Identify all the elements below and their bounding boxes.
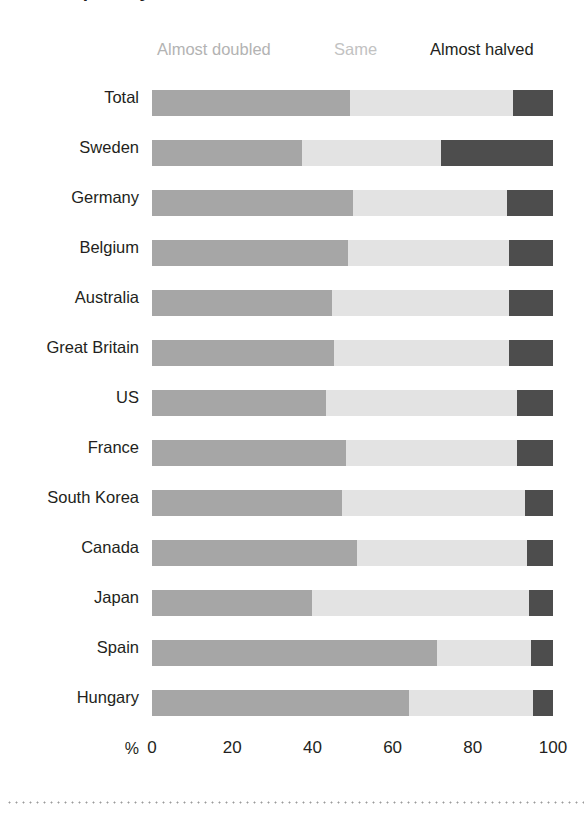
segment-same (348, 240, 508, 266)
segment-same (437, 640, 531, 666)
stacked-bar (152, 290, 553, 316)
chart-row: Sweden (0, 128, 587, 178)
chart-row: South Korea (0, 478, 587, 528)
chart-row: Great Britain (0, 328, 587, 378)
segment-almost-doubled (152, 440, 346, 466)
chart-row: Australia (0, 278, 587, 328)
chart-container: Extreme poverty has almost halved Almost… (0, 0, 587, 824)
segment-same (409, 690, 533, 716)
x-tick-80: 80 (463, 738, 482, 758)
segment-almost-doubled (152, 140, 302, 166)
chart-row: Hungary (0, 678, 587, 728)
row-label-total: Total (0, 88, 139, 107)
row-label-great-britain: Great Britain (0, 338, 139, 357)
stacked-bar (152, 540, 553, 566)
segment-same (302, 140, 440, 166)
row-label-france: France (0, 438, 139, 457)
footer-dotted-divider (6, 801, 584, 804)
segment-almost-doubled (152, 490, 342, 516)
stacked-bar (152, 390, 553, 416)
chart-row: US (0, 378, 587, 428)
stacked-bar (152, 490, 553, 516)
row-label-hungary: Hungary (0, 688, 139, 707)
segment-almost-halved (441, 140, 553, 166)
segment-same (342, 490, 524, 516)
row-label-sweden: Sweden (0, 138, 139, 157)
row-label-us: US (0, 388, 139, 407)
plot-area: TotalSwedenGermanyBelgiumAustraliaGreat … (0, 78, 587, 728)
legend-item-almost-halved: Almost halved (430, 40, 534, 59)
row-label-canada: Canada (0, 538, 139, 557)
row-label-spain: Spain (0, 638, 139, 657)
row-label-germany: Germany (0, 188, 139, 207)
segment-almost-doubled (152, 240, 348, 266)
segment-same (332, 290, 508, 316)
row-label-japan: Japan (0, 588, 139, 607)
chart-row: France (0, 428, 587, 478)
x-tick-20: 20 (223, 738, 242, 758)
chart-title-clip: Extreme poverty has almost halved (0, 0, 587, 6)
chart-row: Spain (0, 628, 587, 678)
legend-item-almost-doubled: Almost doubled (157, 40, 271, 59)
legend-item-same: Same (334, 40, 377, 59)
segment-same (350, 90, 512, 116)
x-tick-100: 100 (539, 738, 567, 758)
segment-almost-halved (529, 590, 553, 616)
segment-almost-halved (513, 90, 553, 116)
segment-almost-halved (527, 540, 553, 566)
axis-unit-label: % (0, 740, 139, 758)
segment-same (353, 190, 507, 216)
chart-title: Extreme poverty has almost halved (4, 0, 316, 2)
segment-almost-halved (517, 390, 553, 416)
stacked-bar (152, 690, 553, 716)
segment-same (312, 590, 529, 616)
row-label-south-korea: South Korea (0, 488, 139, 507)
stacked-bar (152, 240, 553, 266)
row-label-australia: Australia (0, 288, 139, 307)
segment-almost-halved (525, 490, 553, 516)
segment-almost-halved (509, 340, 553, 366)
segment-almost-doubled (152, 590, 312, 616)
segment-almost-halved (509, 240, 553, 266)
segment-almost-doubled (152, 640, 437, 666)
segment-almost-halved (533, 690, 553, 716)
segment-almost-doubled (152, 390, 326, 416)
chart-row: Belgium (0, 228, 587, 278)
segment-almost-halved (509, 290, 553, 316)
x-axis: % 020406080100 (0, 738, 587, 768)
segment-almost-halved (517, 440, 553, 466)
segment-same (334, 340, 508, 366)
segment-almost-doubled (152, 690, 409, 716)
segment-same (357, 540, 527, 566)
segment-same (326, 390, 516, 416)
row-label-belgium: Belgium (0, 238, 139, 257)
chart-row: Canada (0, 528, 587, 578)
chart-legend: Almost doubled Same Almost halved (0, 40, 587, 66)
stacked-bar (152, 440, 553, 466)
chart-row: Germany (0, 178, 587, 228)
x-tick-0: 0 (147, 738, 156, 758)
segment-almost-doubled (152, 290, 332, 316)
stacked-bar (152, 90, 553, 116)
stacked-bar (152, 190, 553, 216)
chart-row: Total (0, 78, 587, 128)
segment-almost-doubled (152, 340, 334, 366)
chart-row: Japan (0, 578, 587, 628)
segment-almost-doubled (152, 90, 350, 116)
segment-almost-doubled (152, 540, 357, 566)
segment-almost-halved (507, 190, 553, 216)
stacked-bar (152, 340, 553, 366)
x-tick-60: 60 (383, 738, 402, 758)
segment-same (346, 440, 516, 466)
stacked-bar (152, 590, 553, 616)
segment-almost-halved (531, 640, 553, 666)
stacked-bar (152, 140, 553, 166)
x-tick-40: 40 (303, 738, 322, 758)
segment-almost-doubled (152, 190, 353, 216)
stacked-bar (152, 640, 553, 666)
